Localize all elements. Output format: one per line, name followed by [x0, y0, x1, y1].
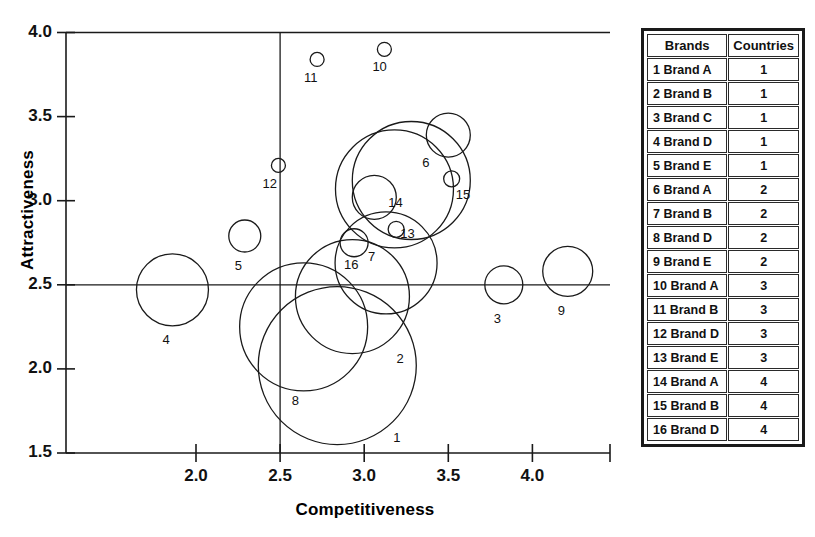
- bubble-label-2: 2: [396, 351, 403, 366]
- legend-table-element: Brands Countries 1 Brand A12 Brand B13 B…: [646, 33, 800, 442]
- table-row: 6 Brand A2: [647, 178, 799, 201]
- bubble-16[interactable]: [340, 229, 368, 257]
- table-row: 14 Brand A4: [647, 370, 799, 393]
- cell-brand: 12 Brand D: [647, 322, 727, 345]
- bubble-label-7: 7: [368, 249, 375, 264]
- table-row: 15 Brand B4: [647, 394, 799, 417]
- table-row: 4 Brand D1: [647, 130, 799, 153]
- y-tick-label: 4.0: [6, 22, 52, 42]
- column-header-countries: Countries: [728, 34, 799, 57]
- cell-countries: 1: [728, 154, 799, 177]
- bubble-label-6: 6: [422, 155, 429, 170]
- table-row: 9 Brand E2: [647, 250, 799, 273]
- bubble-label-14: 14: [388, 195, 402, 210]
- cell-brand: 1 Brand A: [647, 58, 727, 81]
- table-row: 8 Brand D2: [647, 226, 799, 249]
- x-axis-title: Competitiveness: [200, 500, 530, 520]
- table-body: 1 Brand A12 Brand B13 Brand C14 Brand D1…: [647, 58, 799, 441]
- cell-countries: 4: [728, 394, 799, 417]
- bubble-4[interactable]: [136, 254, 208, 326]
- cell-brand: 13 Brand E: [647, 346, 727, 369]
- x-tick-label: 3.5: [423, 466, 473, 486]
- cell-countries: 3: [728, 346, 799, 369]
- table-row: 1 Brand A1: [647, 58, 799, 81]
- cell-countries: 1: [728, 58, 799, 81]
- cell-countries: 1: [728, 130, 799, 153]
- bubble-label-5: 5: [235, 258, 242, 273]
- x-tick-label: 4.0: [507, 466, 557, 486]
- x-tick-label: 2.5: [255, 466, 305, 486]
- cell-brand: 6 Brand A: [647, 178, 727, 201]
- cell-brand: 5 Brand E: [647, 154, 727, 177]
- bubble-11[interactable]: [310, 52, 324, 66]
- bubble-1[interactable]: [258, 287, 416, 445]
- bubble-chart-page: 1.52.02.53.03.54.0 2.02.53.03.54.0 12345…: [0, 0, 815, 537]
- cell-brand: 10 Brand A: [647, 274, 727, 297]
- bubble-label-11: 11: [304, 70, 318, 85]
- cell-brand: 16 Brand D: [647, 418, 727, 441]
- table-head: Brands Countries: [647, 34, 799, 57]
- table-row: 16 Brand D4: [647, 418, 799, 441]
- axes: [57, 33, 610, 463]
- quadrant-crosshair: [66, 33, 610, 454]
- table-row: 5 Brand E1: [647, 154, 799, 177]
- cell-brand: 14 Brand A: [647, 370, 727, 393]
- table-header-row: Brands Countries: [647, 34, 799, 57]
- cell-countries: 1: [728, 82, 799, 105]
- bubble-label-15: 15: [456, 187, 470, 202]
- table-row: 11 Brand B3: [647, 298, 799, 321]
- table-row: 3 Brand C1: [647, 106, 799, 129]
- bubble-10[interactable]: [377, 42, 391, 56]
- bubble-label-4: 4: [162, 332, 169, 347]
- cell-brand: 4 Brand D: [647, 130, 727, 153]
- table-row: 13 Brand E3: [647, 346, 799, 369]
- cell-brand: 8 Brand D: [647, 226, 727, 249]
- cell-countries: 3: [728, 298, 799, 321]
- bubble-label-8: 8: [292, 393, 299, 408]
- bubble-5[interactable]: [229, 220, 261, 252]
- cell-countries: 1: [728, 106, 799, 129]
- y-tick-label: 2.0: [6, 358, 52, 378]
- cell-brand: 11 Brand B: [647, 298, 727, 321]
- cell-countries: 2: [728, 202, 799, 225]
- table-row: 7 Brand B2: [647, 202, 799, 225]
- bubble-12[interactable]: [271, 158, 285, 172]
- cell-countries: 3: [728, 322, 799, 345]
- cell-countries: 2: [728, 250, 799, 273]
- bubble-label-9: 9: [558, 303, 565, 318]
- bubble-label-3: 3: [494, 311, 501, 326]
- bubble-label-13: 13: [400, 226, 414, 241]
- bubble-label-12: 12: [262, 176, 276, 191]
- cell-brand: 7 Brand B: [647, 202, 727, 225]
- cell-brand: 2 Brand B: [647, 82, 727, 105]
- bubble-label-16: 16: [344, 257, 358, 272]
- cell-countries: 2: [728, 226, 799, 249]
- table-row: 2 Brand B1: [647, 82, 799, 105]
- cell-brand: 9 Brand E: [647, 250, 727, 273]
- bubble-9[interactable]: [543, 246, 593, 296]
- cell-countries: 4: [728, 418, 799, 441]
- bubble-series: [136, 42, 592, 444]
- x-tick-label: 3.0: [339, 466, 389, 486]
- cell-countries: 2: [728, 178, 799, 201]
- bubble-label-1: 1: [393, 430, 400, 445]
- cell-brand: 3 Brand C: [647, 106, 727, 129]
- column-header-brands: Brands: [647, 34, 727, 57]
- bubble-chart: 1.52.02.53.03.54.0 2.02.53.03.54.0 12345…: [0, 0, 630, 537]
- x-tick-label: 2.0: [171, 466, 221, 486]
- brands-countries-table: Brands Countries 1 Brand A12 Brand B13 B…: [641, 28, 805, 447]
- cell-countries: 3: [728, 274, 799, 297]
- cell-brand: 15 Brand B: [647, 394, 727, 417]
- cell-countries: 4: [728, 370, 799, 393]
- y-axis-title: Attractiveness: [18, 120, 38, 300]
- bubble-label-10: 10: [372, 59, 386, 74]
- y-tick-label: 1.5: [6, 442, 52, 462]
- table-row: 12 Brand D3: [647, 322, 799, 345]
- table-row: 10 Brand A3: [647, 274, 799, 297]
